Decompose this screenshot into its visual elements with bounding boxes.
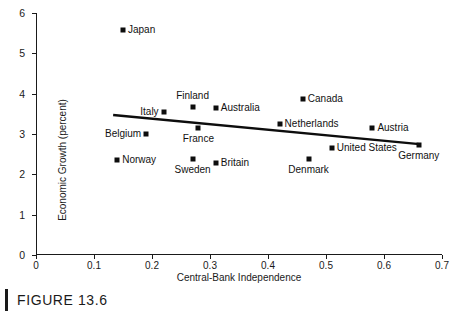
x-tick-0.5: 0.5 [326, 255, 327, 259]
x-tick-label-0.5: 0.5 [319, 261, 333, 271]
data-point-canada [300, 97, 305, 102]
data-label-canada: Canada [308, 94, 343, 104]
x-tick-0.2: 0.2 [152, 255, 153, 259]
x-tick-0: 0 [36, 255, 37, 259]
data-label-belgium: Belgium [105, 129, 141, 139]
data-label-denmark: Denmark [288, 165, 329, 175]
scatter-plot-area: 0123456 00.10.20.30.40.50.60.7 JapanCana… [36, 13, 442, 255]
x-tick-label-0.1: 0.1 [87, 261, 101, 271]
y-tick-label-3: 3 [19, 129, 25, 140]
data-point-austria [370, 126, 375, 131]
x-tick-0.1: 0.1 [94, 255, 95, 259]
y-tick-label-1: 1 [19, 209, 25, 220]
x-tick-label-0.2: 0.2 [145, 261, 159, 271]
data-label-sweden: Sweden [175, 165, 211, 175]
data-label-britain: Britain [221, 158, 249, 168]
data-point-australia [213, 106, 218, 111]
x-tick-0.3: 0.3 [210, 255, 211, 259]
y-tick-label-0: 0 [19, 250, 25, 261]
data-label-austria: Austria [377, 123, 408, 133]
y-axis-line [36, 13, 37, 255]
y-tick-6: 6 [32, 13, 36, 14]
y-tick-label-5: 5 [19, 48, 25, 59]
data-label-italy: Italy [140, 107, 158, 117]
data-point-norway [115, 158, 120, 163]
data-point-denmark [306, 156, 311, 161]
x-tick-label-0.6: 0.6 [377, 261, 391, 271]
data-point-britain [213, 161, 218, 166]
y-tick-label-2: 2 [19, 169, 25, 180]
x-tick-0.6: 0.6 [384, 255, 385, 259]
figure-13-6: Economic Growth (percent) 0123456 00.10.… [0, 0, 451, 320]
figure-caption: FIGURE 13.6 [5, 289, 108, 311]
caption-label: FIGURE 13.6 [17, 292, 108, 308]
data-point-netherlands [277, 121, 282, 126]
data-point-germany [416, 142, 421, 147]
data-label-france: France [183, 134, 214, 144]
x-axis-title: Central-Bank Independence [36, 272, 442, 283]
x-tick-label-0.3: 0.3 [203, 261, 217, 271]
trend-line [36, 13, 442, 255]
data-point-italy [161, 109, 166, 114]
x-tick-label-0.4: 0.4 [261, 261, 275, 271]
caption-rule-icon [5, 289, 8, 311]
data-label-united-states: United States [337, 143, 397, 153]
data-point-united-states [329, 146, 334, 151]
data-label-japan: Japan [128, 25, 155, 35]
data-point-france [196, 125, 201, 130]
y-tick-label-4: 4 [19, 88, 25, 99]
data-label-germany: Germany [398, 151, 439, 161]
data-label-finland: Finland [176, 91, 209, 101]
data-point-japan [121, 28, 126, 33]
data-label-australia: Australia [221, 103, 260, 113]
x-tick-0.4: 0.4 [268, 255, 269, 259]
y-tick-5: 5 [32, 53, 36, 54]
y-tick-label-6: 6 [19, 8, 25, 19]
x-axis-line [36, 254, 442, 255]
x-tick-0.7: 0.7 [442, 255, 443, 259]
y-tick-2: 2 [32, 174, 36, 175]
data-label-netherlands: Netherlands [285, 119, 339, 129]
x-tick-label-0: 0 [33, 261, 39, 271]
data-point-belgium [144, 132, 149, 137]
y-tick-1: 1 [32, 215, 36, 216]
data-point-sweden [190, 157, 195, 162]
y-tick-4: 4 [32, 94, 36, 95]
y-tick-3: 3 [32, 134, 36, 135]
x-tick-label-0.7: 0.7 [435, 261, 449, 271]
data-point-finland [190, 105, 195, 110]
data-label-norway: Norway [122, 155, 156, 165]
